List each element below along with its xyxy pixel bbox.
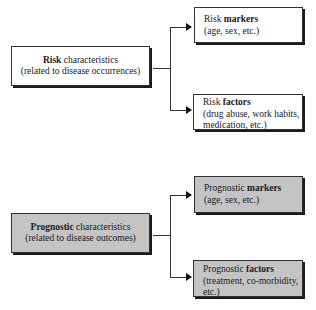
risk-factors-subtitle-1: (drug abuse, work habits, [203, 109, 302, 121]
risk-markers-bold: markers [224, 14, 258, 24]
risk-connector-bottom-branch [170, 110, 187, 111]
prognostic-factors-prefix: Prognostic [203, 264, 246, 274]
risk-characteristics-subtitle: (related to disease occurrences) [12, 66, 149, 78]
prognostic-factors-bold: factors [246, 264, 274, 274]
risk-factors-bold: factors [223, 97, 251, 107]
prognostic-markers-subtitle: (age, sex, etc.) [204, 195, 302, 207]
prognostic-characteristics-subtitle: (related to disease outcomes) [12, 233, 149, 245]
prognostic-bold: Prognostic [31, 222, 74, 232]
prognostic-factors-subtitle-1: (treatment, co-morbidity, [203, 276, 302, 288]
prognostic-markers-title: Prognostic markers [204, 183, 302, 195]
risk-characteristics-box: Risk characteristics (related to disease… [11, 46, 150, 86]
arrow-head-icon [186, 106, 192, 114]
prognostic-connector-vertical [170, 195, 171, 278]
prognostic-characteristics-title: Prognostic characteristics [12, 222, 149, 234]
risk-characteristics-title: Risk characteristics [12, 55, 149, 67]
arrow-head-icon [186, 273, 192, 281]
prognostic-connector-bottom-branch [170, 277, 187, 278]
risk-connector-vertical [170, 27, 171, 111]
risk-markers-prefix: Risk [204, 14, 224, 24]
prognostic-factors-subtitle-2: etc.) [203, 287, 302, 299]
risk-rest: characteristics [61, 55, 118, 65]
prognostic-markers-bold: markers [247, 183, 281, 193]
prognostic-markers-box: Prognostic markers (age, sex, etc.) [194, 176, 303, 213]
risk-markers-subtitle: (age, sex, etc.) [204, 26, 302, 38]
risk-factors-box: Risk factors (drug abuse, work habits, m… [193, 94, 303, 130]
risk-markers-title: Risk markers [204, 14, 302, 26]
risk-markers-box: Risk markers (age, sex, etc.) [194, 7, 303, 43]
prognostic-factors-title: Prognostic factors [203, 264, 302, 276]
arrow-head-icon [186, 23, 192, 31]
prognostic-factors-box: Prognostic factors (treatment, co-morbid… [193, 260, 303, 297]
risk-connector-top-branch [170, 27, 187, 28]
risk-factors-title: Risk factors [203, 97, 302, 109]
prognostic-rest: characteristics [74, 222, 131, 232]
risk-bold: Risk [43, 55, 61, 65]
arrow-head-icon [186, 191, 192, 199]
prognostic-connector-top-branch [170, 195, 187, 196]
prognostic-connector-horizontal [153, 235, 170, 236]
risk-factors-prefix: Risk [203, 97, 223, 107]
risk-factors-subtitle-2: medication, etc.) [203, 120, 302, 132]
prognostic-characteristics-box: Prognostic characteristics (related to d… [11, 213, 150, 253]
risk-connector-horizontal [153, 68, 170, 69]
prognostic-markers-prefix: Prognostic [204, 183, 247, 193]
